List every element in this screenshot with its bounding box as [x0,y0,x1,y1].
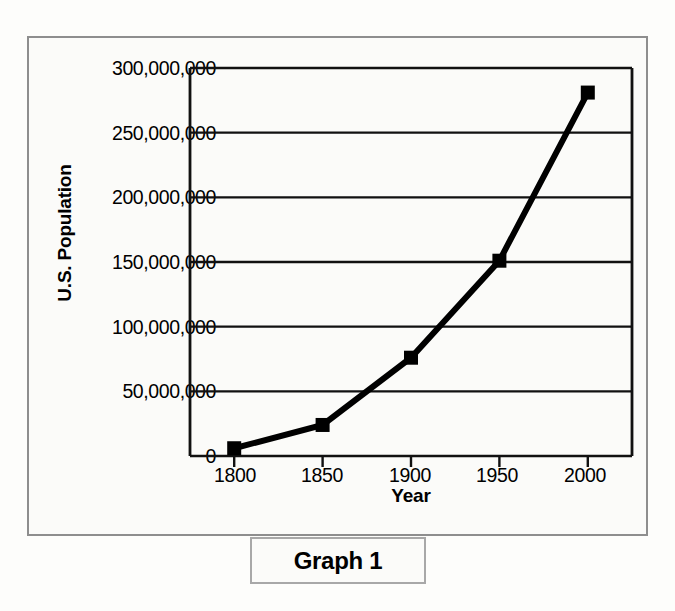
x-axis-ticks [234,456,588,467]
data-series-line [234,93,588,449]
data-point-markers [227,86,595,456]
graph-page: 300,000,000 250,000,000 200,000,000 150,… [0,0,675,611]
plot-area [0,0,675,611]
chart-figure: 300,000,000 250,000,000 200,000,000 150,… [0,0,675,611]
caption-box: Graph 1 [250,537,426,584]
caption-label: Graph 1 [294,547,383,575]
gridlines [190,68,632,456]
